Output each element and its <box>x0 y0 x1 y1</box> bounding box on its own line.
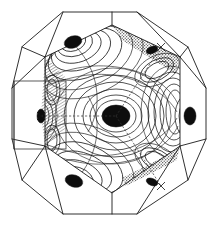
right-maximum-blob <box>184 107 196 125</box>
brillouin-zone-plot <box>0 0 224 225</box>
contour-figure <box>0 0 224 225</box>
